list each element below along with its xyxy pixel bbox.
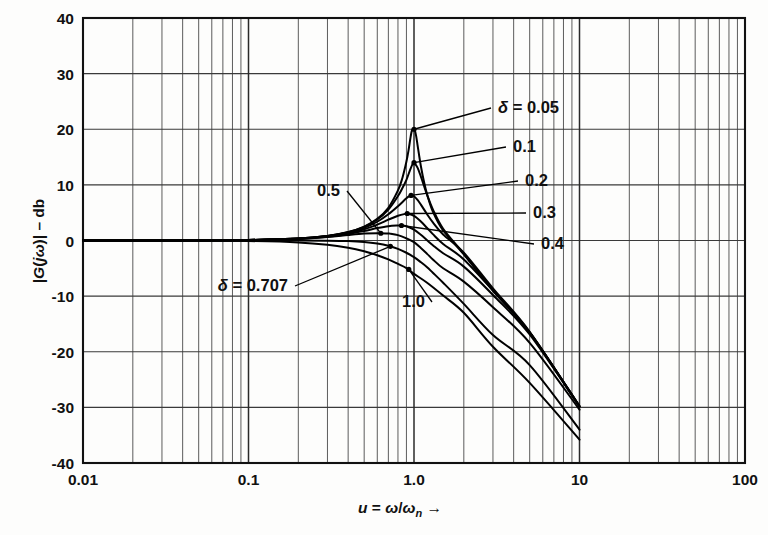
bode-magnitude-figure: 403020100-10-20-30-40 0.010.11.010100 δ … (0, 0, 768, 535)
curve-label-d10: 1.0 (402, 292, 425, 310)
x-tick-label: 100 (732, 471, 758, 488)
y-tick-label: -40 (52, 455, 74, 472)
y-tick-label: 30 (57, 66, 74, 83)
curve-label-d01: 0.1 (513, 137, 536, 155)
y-tick-label: -30 (52, 399, 74, 416)
response-curve (83, 213, 580, 406)
x-tick-label: 0.01 (68, 471, 99, 488)
response-curve (83, 225, 580, 406)
x-axis-title: u = ω/ωn → (358, 499, 442, 519)
figure-page: 403020100-10-20-30-40 0.010.11.010100 δ … (0, 0, 768, 535)
y-axis-tick-labels: 403020100-10-20-30-40 (52, 10, 74, 472)
curve-set (83, 129, 580, 440)
y-tick-label: 0 (65, 233, 74, 250)
curve-label-d0707: δ = 0.707 (218, 276, 288, 294)
y-tick-label: -20 (52, 344, 74, 361)
response-curve (83, 240, 580, 429)
response-curve (83, 233, 580, 409)
y-axis-title: |G(jω)| – db (30, 199, 47, 284)
response-curve (83, 195, 580, 406)
response-curve (83, 129, 580, 406)
curve-label-d03: 0.3 (533, 203, 556, 221)
curve-label-d02: 0.2 (525, 171, 548, 189)
x-tick-label: 10 (571, 471, 588, 488)
x-tick-label: 1.0 (403, 471, 425, 488)
y-tick-label: 10 (57, 177, 74, 194)
curve-label-d04: 0.4 (541, 234, 565, 252)
x-tick-label: 0.1 (238, 471, 260, 488)
curve-label-d05: 0.5 (317, 181, 340, 199)
y-tick-label: 40 (57, 10, 74, 27)
curve-label-d005: δ = 0.05 (498, 98, 559, 116)
x-axis-tick-labels: 0.010.11.010100 (68, 471, 758, 488)
y-tick-label: 20 (57, 121, 74, 138)
y-tick-label: -10 (52, 288, 74, 305)
